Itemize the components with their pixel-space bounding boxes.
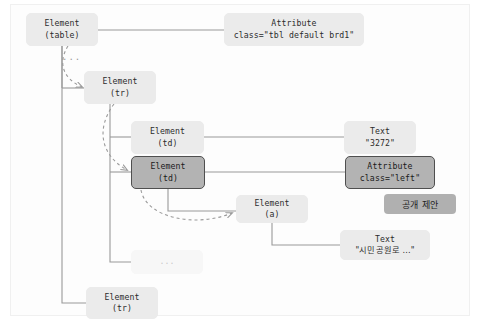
node-line1: Element [150,161,185,172]
node-line2: (tr) [110,88,130,99]
node-line1: Text [370,126,390,137]
node-line2: class="left" [360,173,420,184]
node-line2: (td) [158,173,178,184]
public-proposal-badge[interactable]: 공개 제안 [384,194,456,214]
node-ellipsis-row[interactable]: ... [131,250,203,274]
node-line2: (table) [44,30,79,41]
node-element-tr-first[interactable]: Element (tr) [84,71,156,104]
node-text-3272[interactable]: Text "3272" [344,121,416,154]
node-line1: ... [159,256,174,267]
node-element-td-first[interactable]: Element (td) [131,121,204,154]
node-line1: Element [44,18,79,29]
node-line2: (tr) [112,303,132,314]
node-line1: Element [254,198,289,209]
node-line1: Element [150,126,185,137]
node-line2: class="tbl default brd1" [234,30,355,41]
node-line1: Attribute [271,18,316,29]
node-element-a[interactable]: Element (a) [236,195,308,223]
node-element-tr-second[interactable]: Element (tr) [86,287,158,319]
node-attribute-class-left[interactable]: Attribute class="left" [345,156,435,189]
node-line1: Text [375,234,395,245]
node-line2: (a) [264,209,279,220]
node-line2: "시민공원로 ..." [355,245,414,256]
node-element-td-selected[interactable]: Element (td) [131,156,205,189]
node-element-table[interactable]: Element (table) [26,13,98,46]
node-text-address[interactable]: Text "시민공원로 ..." [340,230,430,260]
node-line2: "3272" [365,138,395,149]
node-attribute-table[interactable]: Attribute class="tbl default brd1" [224,13,364,46]
node-line2: (td) [157,138,177,149]
node-line1: Attribute [367,161,412,172]
ellipsis-marker-table: ... [62,52,81,62]
node-line1: Element [102,76,137,87]
diagram-canvas: Element (table) Attribute class="tbl def… [0,0,480,327]
node-line1: Element [104,292,139,303]
